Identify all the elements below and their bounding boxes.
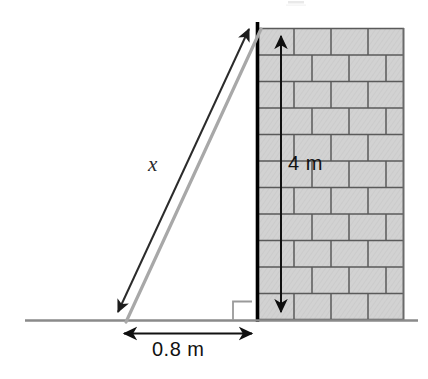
scan-artifact — [286, 1, 306, 6]
ladder-wall-diagram — [0, 0, 428, 379]
wall-height-label: 4 m — [288, 152, 323, 175]
hypotenuse-label: x — [148, 152, 157, 177]
wall-body — [258, 28, 404, 320]
ground-distance-label: 0.8 m — [152, 338, 205, 361]
brick-wall — [258, 28, 404, 320]
